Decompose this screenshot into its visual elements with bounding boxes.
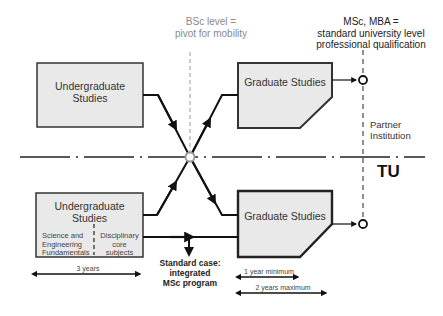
sci-line-3: Fundamentals (42, 249, 98, 258)
bsc-line-2: pivot for mobility (150, 28, 272, 40)
tu-qualification-node (359, 220, 367, 228)
msc-line-3: professional qualification (306, 39, 436, 51)
standard-case-annotation: Standard case: integrated MSc program (158, 259, 222, 288)
tu-label: TU (377, 162, 427, 182)
partner-line-2: Institution (370, 131, 440, 142)
pivot-circle (186, 153, 195, 162)
disc-line-3: subjects (96, 249, 143, 258)
partner-qualification-node (359, 76, 367, 84)
arrowhead-2 (190, 157, 215, 203)
partner-institution-label: Partner Institution (370, 120, 440, 142)
partner-ug-line-1: Undergraduate (37, 80, 143, 92)
duration-1-year-label: 1 year minimum (240, 268, 298, 276)
tu-ug-line-1: Undergraduate (36, 200, 143, 212)
tu-graduate-box (238, 191, 332, 257)
arrowhead-3 (157, 182, 176, 215)
tu-ug-line-2: Studies (36, 212, 143, 224)
tu-ug-label: Undergraduate Studies (36, 200, 143, 224)
bsc-line-1: BSc level = (150, 16, 272, 28)
bsc-level-annotation: BSc level = pivot for mobility (150, 16, 272, 39)
std-line-3: MSc program (158, 279, 222, 289)
msc-mba-annotation: MSc, MBA = standard university level pro… (306, 16, 436, 51)
partner-grad-label: Graduate Studies (238, 76, 332, 88)
duration-3-years-label: 3 years (36, 265, 140, 273)
disciplinary-core-label: Disciplinary core subjects (96, 232, 143, 258)
partner-ug-line-2: Studies (37, 92, 143, 104)
duration-2-years-label: 2 years maximum (240, 284, 326, 292)
msc-line-1: MSc, MBA = (306, 16, 436, 28)
partner-ug-label: Undergraduate Studies (37, 80, 143, 104)
msc-line-2: standard university level (306, 28, 436, 40)
partner-graduate-box (238, 63, 332, 128)
science-fundamentals-label: Science and Engineering Fundamentals (38, 232, 98, 258)
arrowhead-4 (190, 119, 210, 157)
arrowhead-1 (158, 95, 176, 129)
tu-grad-label: Graduate Studies (238, 210, 332, 222)
